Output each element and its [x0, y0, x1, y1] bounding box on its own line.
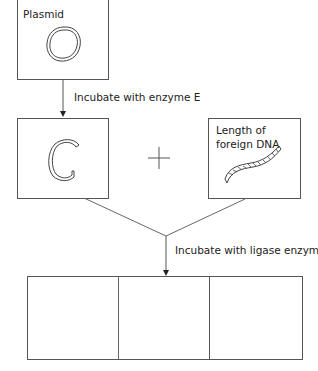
cut-plasmid-icon: [18, 119, 110, 200]
result-box-1: [28, 277, 119, 359]
cut-plasmid-box: [17, 118, 109, 199]
result-box-3: [210, 277, 302, 359]
result-box-2: [119, 277, 210, 359]
step2-label: Incubate with ligase enzyme: [175, 244, 318, 257]
plasmid-box: Plasmid: [17, 0, 109, 80]
plus-icon: [148, 147, 170, 169]
step1-label: Incubate with enzyme E: [74, 91, 200, 104]
foreign-dna-box: Length of foreign DNA: [208, 118, 301, 199]
result-box-group: [27, 276, 303, 360]
circular-plasmid-icon: [18, 0, 110, 81]
dna-strand-icon: [209, 119, 302, 200]
